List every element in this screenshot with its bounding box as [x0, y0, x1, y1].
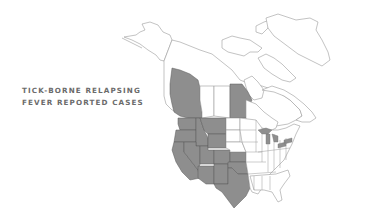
region-alberta — [200, 86, 214, 118]
region-colorado — [214, 150, 230, 164]
region-north-dakota — [226, 118, 240, 130]
baffin-island — [258, 54, 296, 82]
region-arizona — [198, 166, 214, 184]
greenland — [266, 14, 330, 66]
region-utah — [200, 146, 214, 164]
region-kansas — [230, 152, 246, 162]
region-south-dakota — [226, 130, 240, 142]
region-washington — [178, 118, 196, 130]
region-saskatchewan — [214, 86, 230, 118]
region-oregon — [174, 130, 196, 142]
region-new-mexico — [214, 164, 228, 184]
arctic-islands — [222, 36, 262, 56]
alaska — [124, 22, 172, 61]
region-wyoming — [208, 134, 226, 148]
north-america-map — [0, 0, 367, 223]
